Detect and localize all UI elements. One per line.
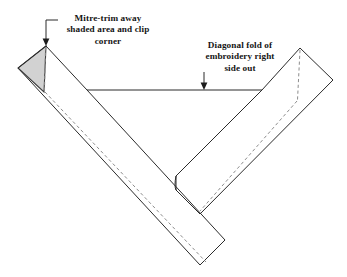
diagram-canvas: Mitre-trim away shaded area and clip cor… — [0, 0, 347, 277]
mitre-leader-line — [46, 20, 58, 40]
annotation-diagonal-fold: Diagonal fold of embroidery right side o… — [186, 40, 294, 74]
mitre-fold-figure — [0, 0, 347, 277]
dashed-guide-left-diagonal — [45, 92, 206, 262]
dashed-guide-right-vertical — [298, 50, 301, 100]
fold-arrowhead-icon — [201, 83, 208, 90]
left-diagonal-strip — [18, 46, 225, 265]
mitre-arrowhead-icon — [43, 39, 50, 46]
dashed-guide-right-diagonal — [200, 101, 297, 211]
shaded-trim-triangle — [18, 46, 46, 92]
annotation-mitre-trim: Mitre-trim away shaded area and clip cor… — [60, 13, 156, 47]
